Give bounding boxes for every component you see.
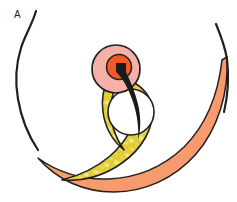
body-contour-left	[16, 11, 38, 150]
panel-label: A	[14, 10, 21, 20]
figure-panel: A	[0, 0, 237, 202]
anatomical-schematic	[0, 0, 237, 202]
